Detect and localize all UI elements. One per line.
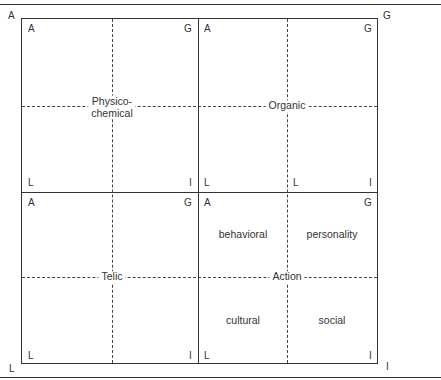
dashed-horizontal-top bbox=[22, 106, 377, 107]
inner-l: L bbox=[293, 178, 299, 188]
system-label-physico-chemical: Physico- chemical bbox=[88, 96, 135, 119]
system-label-telic: Telic bbox=[98, 271, 125, 283]
corner-l: L bbox=[28, 178, 34, 188]
subsystem-cultural: cultural bbox=[226, 315, 260, 326]
system-label-organic: Organic bbox=[266, 100, 309, 112]
outer-label-i: I bbox=[386, 362, 389, 372]
center-horizontal-divider bbox=[21, 192, 378, 193]
bottom-rule bbox=[0, 377, 441, 378]
outer-frame bbox=[21, 18, 378, 364]
system-label-action: Action bbox=[269, 271, 304, 283]
corner-g: G bbox=[184, 24, 192, 34]
dashed-horizontal-bottom bbox=[22, 277, 377, 278]
corner-a: A bbox=[204, 198, 211, 208]
corner-i: I bbox=[369, 178, 372, 188]
top-rule bbox=[0, 4, 441, 5]
corner-i: I bbox=[189, 351, 192, 361]
outer-label-g: G bbox=[383, 11, 391, 21]
center-vertical-divider bbox=[198, 18, 199, 364]
corner-g: G bbox=[184, 198, 192, 208]
corner-l: L bbox=[204, 351, 210, 361]
dashed-vertical-right bbox=[287, 19, 288, 363]
corner-a: A bbox=[28, 24, 35, 34]
corner-a: A bbox=[204, 24, 211, 34]
system-label-line2: chemical bbox=[91, 107, 132, 119]
corner-g: G bbox=[364, 198, 372, 208]
system-label-line1: Physico- bbox=[91, 96, 132, 108]
subsystem-behavioral: behavioral bbox=[219, 229, 267, 240]
subsystem-personality: personality bbox=[307, 229, 358, 240]
corner-a: A bbox=[28, 198, 35, 208]
corner-i: I bbox=[369, 351, 372, 361]
dashed-vertical-left bbox=[112, 19, 113, 363]
outer-label-a: A bbox=[8, 11, 15, 21]
corner-g: G bbox=[364, 24, 372, 34]
corner-l: L bbox=[28, 351, 34, 361]
outer-label-l: L bbox=[9, 364, 15, 374]
corner-l: L bbox=[204, 178, 210, 188]
corner-i: I bbox=[189, 178, 192, 188]
subsystem-social: social bbox=[319, 315, 346, 326]
